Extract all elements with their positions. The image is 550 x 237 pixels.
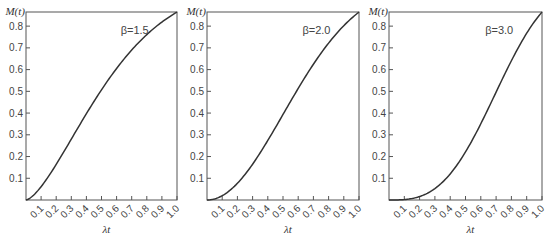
- y-tick-label: 0.4: [372, 108, 386, 119]
- chart-panel-1: 0.10.20.30.40.50.60.70.80.10.20.30.40.50…: [4, 5, 181, 235]
- beta-annotation: β=1.5: [121, 24, 149, 36]
- y-axis-title: M(t): [185, 5, 206, 18]
- beta-annotation: β=2.0: [302, 24, 330, 36]
- beta-annotation: β=3.0: [485, 24, 513, 36]
- y-tick-label: 0.6: [9, 64, 23, 75]
- y-tick-label: 0.7: [372, 42, 386, 53]
- data-curve: [207, 12, 359, 200]
- y-tick-label: 0.1: [9, 173, 23, 184]
- x-axis-title: λt: [102, 223, 112, 235]
- chart-figure: 0.10.20.30.40.50.60.70.80.10.20.30.40.50…: [0, 0, 550, 237]
- y-tick-label: 0.5: [372, 86, 386, 97]
- x-axis-title: λt: [283, 223, 293, 235]
- y-axis-title: M(t): [4, 5, 25, 18]
- plot-frame: [26, 12, 177, 200]
- x-axis-title: λt: [466, 223, 476, 235]
- y-tick-label: 0.6: [190, 64, 204, 75]
- y-tick-label: 0.2: [9, 151, 23, 162]
- y-tick-label: 0.5: [9, 86, 23, 97]
- y-tick-label: 0.7: [9, 42, 23, 53]
- y-tick-label: 0.3: [9, 129, 23, 140]
- y-axis-title: M(t): [367, 5, 388, 18]
- plot-frame: [389, 12, 542, 200]
- y-tick-label: 0.6: [372, 64, 386, 75]
- y-tick-label: 0.8: [190, 21, 204, 32]
- data-curve: [26, 12, 177, 200]
- x-tick-label: 1.0: [164, 202, 182, 220]
- y-tick-label: 0.1: [372, 173, 386, 184]
- y-tick-label: 0.3: [190, 129, 204, 140]
- chart-panel-3: 0.10.20.30.40.50.60.70.80.10.20.30.40.50…: [367, 5, 546, 235]
- y-tick-label: 0.8: [9, 21, 23, 32]
- y-tick-label: 0.8: [372, 21, 386, 32]
- x-tick-label: 1.0: [346, 202, 364, 220]
- y-tick-label: 0.7: [190, 42, 204, 53]
- x-tick-label: 1.0: [529, 202, 547, 220]
- y-tick-label: 0.4: [190, 108, 204, 119]
- chart-panel-2: 0.10.20.30.40.50.60.70.80.10.20.30.40.50…: [185, 5, 363, 235]
- y-tick-label: 0.2: [190, 151, 204, 162]
- y-tick-label: 0.1: [190, 173, 204, 184]
- y-tick-label: 0.2: [372, 151, 386, 162]
- y-tick-label: 0.5: [190, 86, 204, 97]
- y-tick-label: 0.4: [9, 108, 23, 119]
- y-tick-label: 0.3: [372, 129, 386, 140]
- data-curve: [389, 12, 542, 200]
- plot-frame: [207, 12, 359, 200]
